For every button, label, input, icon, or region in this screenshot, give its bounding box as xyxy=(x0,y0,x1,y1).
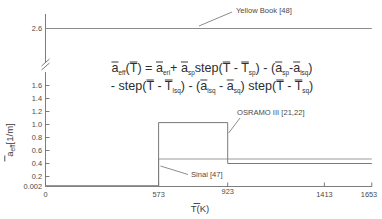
x-tick-label-573: 573 xyxy=(152,190,164,199)
equation-subscript: erl xyxy=(163,69,170,76)
svg-text:aeff[1/m]: aeff[1/m] xyxy=(4,123,16,156)
y-tick-label-0-4: 0.4 xyxy=(32,159,42,168)
y-tick-label-1-4: 1.4 xyxy=(32,94,42,103)
y-tick-label-0-002: 0.002 xyxy=(24,182,43,191)
equation-overlay: aeff(T) = aerl+ aspstep(T - Tsp) - (asp-… xyxy=(111,61,314,95)
x-tick-label-923: 923 xyxy=(222,187,234,196)
annotation-sinai: Sinai [47] xyxy=(161,166,223,179)
equation-line-1: aeff(T) = aerl+ aspstep(T - Tsp) - (asp-… xyxy=(111,61,312,77)
equation-token: step( xyxy=(195,61,224,75)
equation-token: - step( xyxy=(111,79,147,93)
y-tick-label-0-8: 0.8 xyxy=(32,133,42,142)
y-tick-label-1-2: 1.2 xyxy=(32,107,42,116)
y-tick-label-1-6: 1.6 xyxy=(32,81,42,90)
y-axis-title: aeff[1/m] xyxy=(4,123,16,161)
equation-token: ) xyxy=(308,61,312,75)
equation-token: ) step( xyxy=(240,79,276,93)
x-axis-title-suffix: (K) xyxy=(197,203,210,214)
equation-token: - xyxy=(284,79,295,93)
equation-token: a xyxy=(200,79,207,93)
annotation-yellow-book: Yellow Book [48] xyxy=(199,6,292,26)
equation-token: ) xyxy=(309,79,313,93)
x-ticks-group: 0 573 923 1413 1653 xyxy=(43,183,377,200)
x-tick-label-1413: 1413 xyxy=(316,190,332,199)
y-tick-label-1-0: 1.0 xyxy=(32,120,42,129)
y-tick-label-2-6: 2.6 xyxy=(32,24,42,33)
axes-group xyxy=(42,14,373,187)
equation-token: a xyxy=(156,61,163,75)
y-axis-title-suffix: [1/m] xyxy=(4,123,15,144)
x-tick-label-1653: 1653 xyxy=(361,190,377,199)
equation-token: - xyxy=(230,61,241,75)
chart-figure: 2.6 1.6 1.4 1.2 1.0 0.8 0.6 0.4 0.2 xyxy=(0,0,382,219)
equation-token: ) - ( xyxy=(256,61,276,75)
equation-token: ) - ( xyxy=(181,79,201,93)
equation-token: a xyxy=(293,61,300,75)
equation-line-2: - step(T - Tlsq) - (alsq - asq) step(T -… xyxy=(111,79,314,95)
svg-text:T(K): T(K) xyxy=(191,203,209,214)
annotation-osramo: OSRAMO III [21,22] xyxy=(229,108,305,133)
equation-token: - xyxy=(154,79,165,93)
equation-token: - xyxy=(216,79,227,93)
y-tick-label-0-6: 0.6 xyxy=(32,146,42,155)
equation-token: a xyxy=(275,61,282,75)
chart-svg: 2.6 1.6 1.4 1.2 1.0 0.8 0.6 0.4 0.2 xyxy=(0,0,382,219)
annotation-osramo-label: OSRAMO III [21,22] xyxy=(237,108,305,117)
equation-token: ) = xyxy=(137,61,156,75)
annotation-yellow-book-label: Yellow Book [48] xyxy=(236,6,292,15)
equation-token: + xyxy=(170,61,181,75)
equation-token: a xyxy=(181,61,188,75)
x-axis-title: T(K) xyxy=(191,203,209,214)
x-tick-label-0: 0 xyxy=(43,190,47,199)
annotation-sinai-label: Sinai [47] xyxy=(191,170,223,179)
equation-token: a xyxy=(227,79,234,93)
y-tick-label-0-2: 0.2 xyxy=(32,172,42,181)
equation-token: a xyxy=(111,61,118,75)
